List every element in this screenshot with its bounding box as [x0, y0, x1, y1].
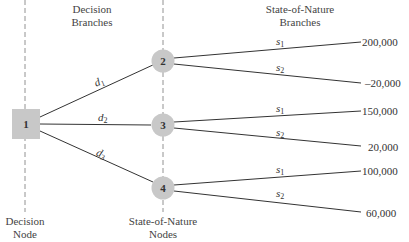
chance-node-label: 4 — [152, 182, 174, 194]
decision-tree-diagram — [0, 0, 409, 242]
branch-subscript: 1 — [280, 168, 284, 177]
header-line: Decision — [62, 3, 122, 16]
state-of-nature-branches-header: State-of-Nature Branches — [255, 3, 345, 29]
decision-node-label: 1 — [12, 118, 40, 130]
branch-subscript: 2 — [280, 192, 284, 201]
state-branch-label: s1 — [276, 36, 284, 50]
state-branch-label: s1 — [276, 164, 284, 178]
state-branch-4-s1 — [174, 171, 361, 185]
branch-subscript: 2 — [280, 66, 284, 75]
branch-subscript: 2 — [280, 131, 284, 140]
branch-subscript: 1 — [280, 107, 284, 116]
header-line: Branches — [62, 16, 122, 29]
decision-branch-d2 — [40, 124, 151, 125]
state-branch-label: s2 — [276, 188, 284, 202]
footer-line: Node — [0, 228, 50, 241]
header-line: State-of-Nature — [255, 3, 345, 16]
payoff-value: 200,000 — [362, 36, 398, 48]
header-line: Branches — [255, 16, 345, 29]
state-branch-3-s1 — [174, 111, 361, 122]
payoff-value: 60,000 — [366, 207, 396, 219]
state-branch-2-s2 — [174, 64, 361, 83]
state-branch-2-s1 — [174, 42, 361, 58]
payoff-value: 20,000 — [368, 141, 398, 153]
decision-branches-header: Decision Branches — [62, 3, 122, 29]
state-branch-3-s2 — [174, 128, 361, 146]
state-of-nature-nodes-footer: State-of-Nature Nodes — [118, 215, 208, 241]
chance-node-label: 2 — [152, 55, 174, 67]
payoff-value: 100,000 — [362, 165, 398, 177]
footer-line: Decision — [0, 215, 50, 228]
decision-node-footer: Decision Node — [0, 215, 50, 241]
state-branch-label: s1 — [276, 103, 284, 117]
branch-subscript: 2 — [104, 116, 108, 125]
state-branch-4-s2 — [174, 191, 361, 212]
chance-node-label: 3 — [152, 119, 174, 131]
state-branch-label: s2 — [276, 127, 284, 141]
footer-line: Nodes — [118, 228, 208, 241]
state-branch-label: s2 — [276, 62, 284, 76]
payoff-value: 150,000 — [362, 105, 398, 117]
branch-subscript: 1 — [280, 40, 284, 49]
decision-branch-label-d2: d2 — [98, 112, 108, 126]
footer-line: State-of-Nature — [118, 215, 208, 228]
payoff-value: –20,000 — [365, 77, 401, 89]
